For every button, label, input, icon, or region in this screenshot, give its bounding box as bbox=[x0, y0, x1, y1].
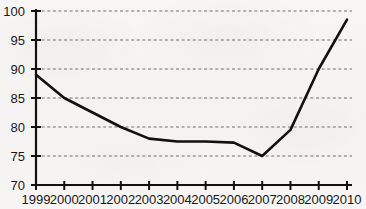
x-axis-tick-label: 2007 bbox=[248, 192, 277, 207]
chart-figure: 707580859095100 199920002001200220032004… bbox=[0, 0, 366, 209]
x-axis-tick-label: 2001 bbox=[78, 192, 107, 207]
y-axis-tick-label: 100 bbox=[3, 4, 25, 19]
y-axis-tick-label: 90 bbox=[11, 62, 25, 77]
x-axis-tick-label: 2009 bbox=[304, 192, 333, 207]
x-axis-tick-labels: 1999200020012002200320042005200620072008… bbox=[22, 192, 362, 207]
y-axis-tick-label: 95 bbox=[11, 33, 25, 48]
x-axis-tick-label: 2010 bbox=[333, 192, 362, 207]
x-axis-tick-label: 2004 bbox=[163, 192, 192, 207]
y-axis-tick-label: 70 bbox=[11, 178, 25, 193]
line-chart: 707580859095100 199920002001200220032004… bbox=[0, 0, 366, 209]
y-axis-tick-label: 75 bbox=[11, 149, 25, 164]
x-axis-tick-label: 2002 bbox=[106, 192, 135, 207]
x-axis-tick-label: 2006 bbox=[219, 192, 248, 207]
y-axis-tick-labels: 707580859095100 bbox=[3, 4, 25, 193]
x-axis-tick-label: 2008 bbox=[276, 192, 305, 207]
y-axis-tick-label: 85 bbox=[11, 91, 25, 106]
x-axis-tick-label: 1999 bbox=[22, 192, 51, 207]
x-axis-tick-label: 2000 bbox=[50, 192, 79, 207]
x-axis-tick-label: 2005 bbox=[191, 192, 220, 207]
y-axis-tick-label: 80 bbox=[11, 120, 25, 135]
x-axis-tick-label: 2003 bbox=[135, 192, 164, 207]
